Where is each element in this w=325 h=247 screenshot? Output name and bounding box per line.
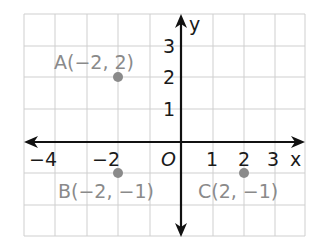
- y-tick-2: 2: [163, 66, 175, 88]
- y-tick-1: 1: [163, 98, 175, 120]
- x-tick-3: 3: [267, 148, 279, 170]
- y-axis-label: y: [189, 13, 200, 35]
- x-tick-1: 1: [206, 148, 218, 170]
- x-tick-neg4: −4: [29, 148, 57, 170]
- y-tick-3: 3: [163, 35, 175, 57]
- point-c: [239, 168, 249, 178]
- x-axis: [24, 136, 305, 148]
- point-c-label: C(2, −1): [198, 180, 278, 202]
- y-axis: [175, 14, 187, 237]
- coordinate-plane: −4 −2 1 2 3 x O 3 2 1 y A(−2, 2) B(−2, −…: [0, 0, 325, 247]
- point-b: [113, 168, 123, 178]
- x-tick-2: 2: [238, 148, 250, 170]
- x-tick-neg2: −2: [92, 148, 120, 170]
- x-axis-label: x: [290, 148, 301, 170]
- point-a-label: A(−2, 2): [54, 51, 134, 73]
- origin-label: O: [161, 148, 176, 170]
- point-a: [113, 72, 123, 82]
- point-b-label: B(−2, −1): [58, 180, 154, 202]
